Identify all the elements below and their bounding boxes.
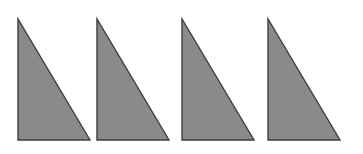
triangles-figure (0, 0, 363, 154)
figure-canvas (0, 0, 363, 154)
